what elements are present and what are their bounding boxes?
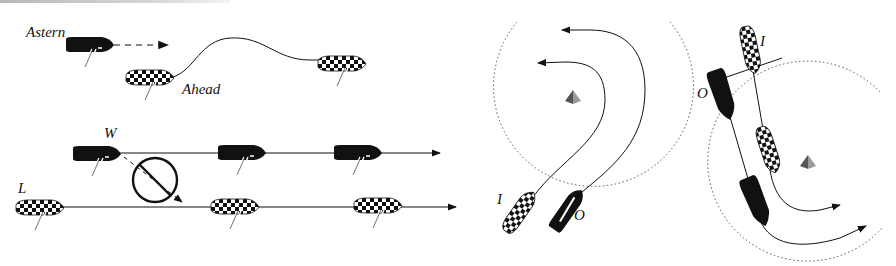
panel-clear-astern-ahead: Astern Ahead	[25, 24, 366, 100]
boat-leeward-1	[16, 200, 64, 230]
label-outside: O	[574, 207, 585, 223]
label-ahead: Ahead	[181, 81, 221, 97]
boat-astern-solid	[66, 37, 114, 67]
boat-windward-2	[218, 145, 266, 175]
boat-ahead-checkered-2	[318, 56, 366, 86]
panel-overlap-zone: I O	[697, 25, 882, 261]
label-windward: W	[104, 125, 118, 141]
boat-leeward-3	[354, 198, 402, 228]
mark-icon	[565, 90, 581, 104]
boat-inside-checkered-2	[754, 125, 783, 175]
panel-windward-leeward: W L	[16, 125, 456, 230]
sailing-rules-diagram: Astern Ahead W L	[0, 0, 896, 266]
boat-leeward-2	[211, 199, 259, 229]
zone-circle	[493, 22, 693, 186]
boat-ahead-checkered	[126, 70, 174, 100]
boat-outside-solid-1	[705, 67, 739, 122]
mark-icon	[800, 155, 816, 169]
label-outside: O	[697, 85, 708, 101]
label-inside: I	[496, 191, 503, 207]
boat-windward-3	[334, 145, 382, 175]
boat-windward-1	[73, 146, 121, 176]
inside-rounding-arrow	[533, 62, 605, 197]
prohibited-circle-icon	[133, 158, 177, 202]
boat-outside-solid-2	[738, 174, 775, 229]
panel-mark-rounding: I O	[493, 22, 693, 236]
label-astern: Astern	[25, 24, 65, 40]
label-leeward: L	[17, 180, 26, 196]
ahead-track-line	[173, 38, 320, 77]
label-inside: I	[759, 33, 766, 49]
boat-inside-checkered	[500, 188, 540, 236]
